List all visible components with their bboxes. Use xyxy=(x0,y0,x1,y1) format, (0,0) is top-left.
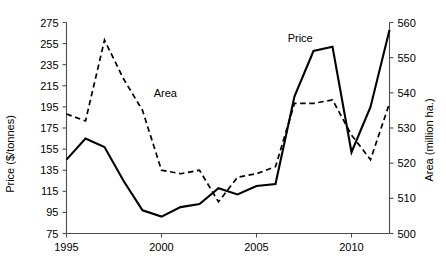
y-tick-label-left: 175 xyxy=(40,122,58,134)
y-tick-label-right: 510 xyxy=(398,192,416,204)
y-axis-left-title: Price ($/tonnes) xyxy=(4,115,16,193)
y-axis-left-ticks: 7595115135155175195215235255275 xyxy=(40,17,66,240)
series-line-area xyxy=(67,40,390,202)
x-tick-label: 2000 xyxy=(149,241,173,253)
y-tick-label-left: 195 xyxy=(40,101,58,113)
series-paths-group xyxy=(67,30,390,217)
dual-axis-line-chart: 7595115135155175195215235255275 50051052… xyxy=(0,0,446,271)
y-tick-label-left: 255 xyxy=(40,38,58,50)
x-tick-label: 2010 xyxy=(339,241,363,253)
y-tick-label-right: 500 xyxy=(398,228,416,240)
series-label-area: Area xyxy=(154,87,178,99)
y-tick-label-right: 520 xyxy=(398,157,416,169)
y-axis-right-ticks: 500510520530540550560 xyxy=(390,17,416,240)
y-axis-right-title: Area (million ha.) xyxy=(423,98,435,181)
y-tick-label-left: 235 xyxy=(40,59,58,71)
y-tick-label-right: 560 xyxy=(398,17,416,29)
y-tick-label-right: 550 xyxy=(398,52,416,64)
series-annotations: AreaPrice xyxy=(154,32,313,99)
y-tick-label-left: 75 xyxy=(46,228,58,240)
y-tick-label-right: 540 xyxy=(398,87,416,99)
y-tick-label-left: 275 xyxy=(40,17,58,29)
y-tick-label-left: 135 xyxy=(40,164,58,176)
x-tick-label: 1995 xyxy=(54,241,78,253)
y-tick-label-left: 155 xyxy=(40,143,58,155)
x-tick-label: 2005 xyxy=(244,241,268,253)
chart-container: 7595115135155175195215235255275 50051052… xyxy=(0,0,446,271)
y-tick-label-left: 215 xyxy=(40,80,58,92)
axes-group xyxy=(67,23,390,234)
y-tick-label-left: 115 xyxy=(41,185,59,197)
y-tick-label-right: 530 xyxy=(398,122,416,134)
y-tick-label-left: 95 xyxy=(46,206,58,218)
series-label-price: Price xyxy=(288,32,313,44)
x-axis-ticks: 1995200020052010 xyxy=(54,234,363,253)
